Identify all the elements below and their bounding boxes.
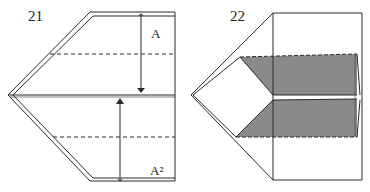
step-number-22: 22 [230, 8, 245, 25]
label-a: A [151, 26, 160, 42]
arrow-a2-icon [116, 98, 124, 181]
label-a2: A² [150, 163, 163, 179]
step-22-diagram [191, 13, 362, 180]
step-21-diagram [8, 12, 175, 181]
step-number-21: 21 [28, 8, 43, 25]
origami-diagram [0, 0, 370, 192]
